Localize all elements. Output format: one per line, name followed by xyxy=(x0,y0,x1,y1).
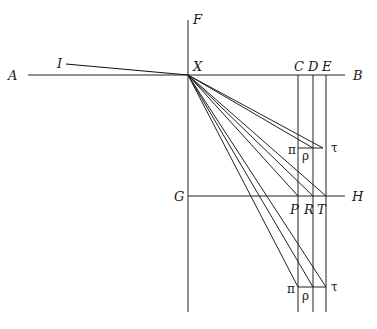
geometric-diagram: A I F X C D E B π ρ τ G H P R T π ρ τ xyxy=(0,0,377,329)
line-ix xyxy=(66,64,188,75)
label-t: T xyxy=(317,202,327,217)
label-rho-lower: ρ xyxy=(302,289,309,303)
label-g: G xyxy=(174,189,184,204)
label-pi-upper: π xyxy=(288,143,296,157)
label-x: X xyxy=(192,59,203,74)
label-pi-lower: π xyxy=(287,282,295,296)
rays-from-x xyxy=(188,75,326,287)
label-d: D xyxy=(307,59,319,74)
label-a: A xyxy=(7,68,17,83)
label-h: H xyxy=(351,189,364,204)
label-rho-upper: ρ xyxy=(302,149,309,163)
label-tau-lower: τ xyxy=(331,280,338,294)
label-r: R xyxy=(303,202,314,217)
label-i: I xyxy=(56,56,63,71)
label-e: E xyxy=(321,59,332,74)
label-f: F xyxy=(192,12,203,27)
label-p: P xyxy=(289,202,299,217)
label-tau-upper: τ xyxy=(331,141,338,155)
label-c: C xyxy=(294,59,304,74)
label-b: B xyxy=(352,68,363,83)
